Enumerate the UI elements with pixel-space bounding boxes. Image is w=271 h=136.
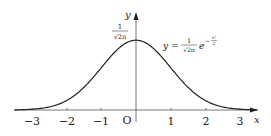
svg-text:−: − — [205, 37, 210, 44]
svg-text:y =: y = — [162, 41, 179, 51]
svg-text:1: 1 — [187, 37, 191, 45]
svg-text:√2π: √2π — [183, 46, 195, 53]
svg-text:√2π: √2π — [114, 33, 127, 41]
tick-label: −2 — [59, 115, 75, 128]
y-axis-arrow-icon — [134, 12, 139, 20]
formula-label: y = 1 √2π e − x² 2 — [162, 35, 217, 53]
tick-label: 2 — [203, 115, 210, 128]
tick-label: −3 — [24, 115, 40, 128]
normal-curve-diagram: −3 −2 −1 1 2 3 O x y 1 √2π y = 1 √2π e −… — [0, 0, 271, 136]
svg-text:2: 2 — [213, 41, 216, 46]
y-axis-label: y — [124, 9, 131, 20]
x-tick-labels: −3 −2 −1 1 2 3 — [24, 115, 244, 128]
tick-label: 3 — [237, 115, 244, 128]
tick-label: 1 — [168, 115, 175, 128]
svg-text:x²: x² — [212, 35, 217, 40]
x-axis-label: x — [254, 114, 260, 125]
svg-text:e: e — [199, 41, 204, 51]
tick-label: −1 — [93, 115, 109, 128]
peak-value-label: 1 √2π — [112, 23, 128, 41]
origin-label: O — [122, 114, 131, 127]
svg-text:1: 1 — [118, 23, 122, 31]
